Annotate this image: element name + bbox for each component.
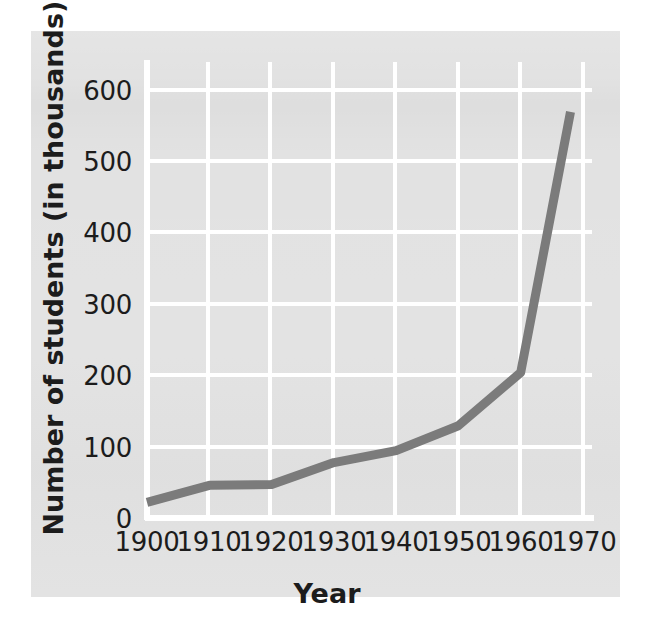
y-axis-title: Number of students (in thousands): [38, 96, 69, 536]
chart-figure: 600 500 400 300 200 100 0 1900 1910 1920…: [0, 0, 654, 634]
horizontal-gridlines: [147, 90, 592, 447]
data-line-students: [147, 112, 571, 503]
x-axis-title: Year: [0, 578, 654, 609]
x-tick-label-1970: 1970: [534, 527, 634, 557]
